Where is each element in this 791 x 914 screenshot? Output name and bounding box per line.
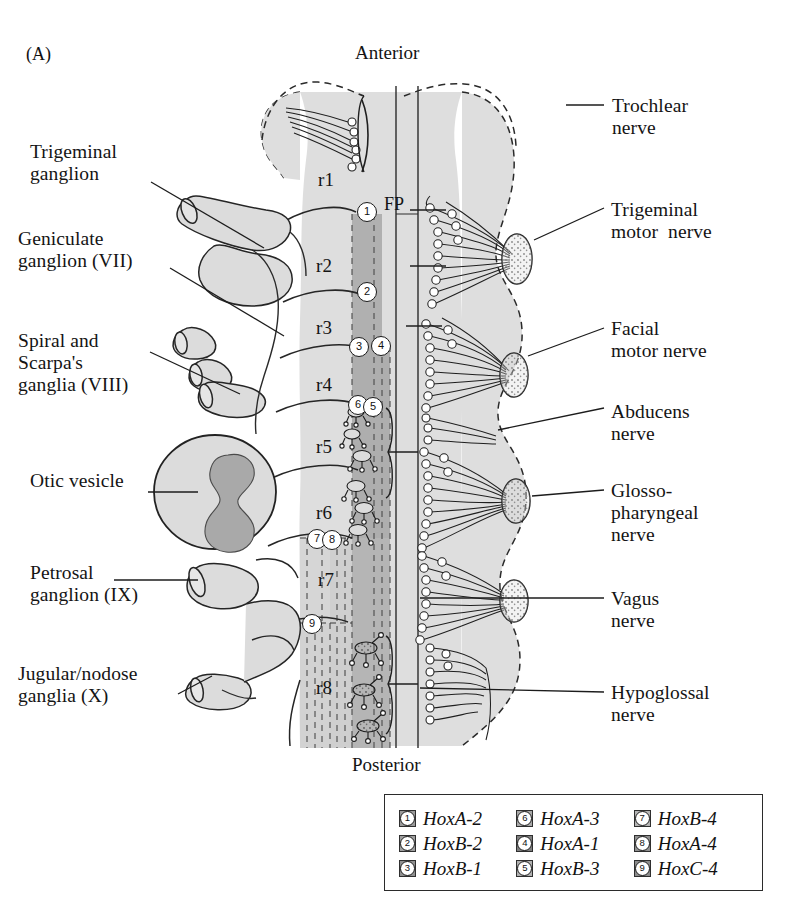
legend-marker-6: 6: [516, 810, 533, 827]
otic-vesicle-shape: [154, 435, 276, 552]
floor-plate-label: FP: [384, 194, 404, 215]
legend-gene-name: HoxA-1: [540, 833, 599, 855]
legend-gene-name: HoxB-3: [540, 858, 599, 880]
cranial-ganglia-left: [154, 196, 306, 746]
rhombomere-label-r7: r7: [318, 569, 334, 590]
figure-canvas: (A) Anterior Posterior FP r1r2r3r4r5r6r7…: [0, 0, 791, 914]
legend-marker-number: 7: [635, 811, 650, 826]
rhombomere-label-r6: r6: [316, 502, 332, 523]
legend-gene-name: HoxC-4: [658, 858, 718, 880]
legend-gene-name: HoxB-2: [423, 833, 482, 855]
hypoglossal-nerve-label: Hypoglossal nerve: [611, 682, 710, 726]
otic-vesicle-label: Otic vesicle: [30, 470, 124, 492]
legend-marker-4: 4: [516, 835, 533, 852]
hox-marker-2: 2: [357, 282, 377, 302]
trigeminal-ganglion-label: Trigeminal ganglion: [30, 141, 117, 185]
rhombomere-label-r2: r2: [316, 255, 332, 276]
abducens-nerve-label: Abducens nerve: [611, 401, 690, 445]
legend-entry-hoxc-4: 9HoxC-4: [634, 858, 751, 880]
legend-marker-3: 3: [399, 860, 416, 877]
legend-marker-number: 9: [635, 861, 650, 876]
rhombomere-label-r1: r1: [318, 169, 334, 190]
hox-marker-8: 8: [322, 530, 342, 550]
legend-gene-name: HoxA-3: [540, 808, 599, 830]
rhombomere-label-r5: r5: [316, 436, 332, 457]
hox-marker-9: 9: [302, 614, 322, 634]
geniculate-ganglion-label: Geniculate ganglion (VII): [18, 228, 133, 272]
legend-entry-hoxa-3: 6HoxA-3: [516, 808, 633, 830]
legend-marker-number: 3: [400, 861, 415, 876]
glossopharyngeal-nerve-label: Glosso- pharyngeal nerve: [611, 480, 699, 545]
legend-marker-8: 8: [634, 835, 651, 852]
trigeminal-motor-nerve-label: Trigeminal motor nerve: [611, 199, 712, 243]
anterior-label: Anterior: [355, 42, 419, 64]
hox-marker-3: 3: [349, 337, 369, 357]
petrosal-ganglion-label: Petrosal ganglion (IX): [30, 562, 138, 606]
hox-marker-1: 1: [357, 202, 377, 222]
legend-gene-name: HoxB-1: [423, 858, 482, 880]
posterior-label: Posterior: [352, 754, 421, 776]
legend-marker-7: 7: [634, 810, 651, 827]
legend-entry-hoxa-4: 8HoxA-4: [634, 833, 751, 855]
legend-marker-2: 2: [399, 835, 416, 852]
legend-marker-number: 6: [517, 811, 532, 826]
legend-marker-5: 5: [516, 860, 533, 877]
rhombomere-label-r3: r3: [316, 317, 332, 338]
legend-gene-name: HoxA-2: [423, 808, 482, 830]
legend-marker-9: 9: [634, 860, 651, 877]
legend-gene-name: HoxA-4: [658, 833, 717, 855]
facial-motor-nerve-label: Facial motor nerve: [611, 318, 707, 362]
hox-marker-4: 4: [371, 336, 391, 356]
legend-marker-number: 4: [517, 836, 532, 851]
legend-entry-hoxa-1: 4HoxA-1: [516, 833, 633, 855]
legend-marker-number: 1: [400, 811, 415, 826]
vagus-nerve-label: Vagus nerve: [611, 588, 659, 632]
hox-gene-legend: 1HoxA-26HoxA-37HoxB-42HoxB-24HoxA-18HoxA…: [384, 794, 763, 891]
legend-entry-hoxa-2: 1HoxA-2: [399, 808, 516, 830]
rhombomere-label-r4: r4: [316, 374, 332, 395]
legend-marker-number: 2: [400, 836, 415, 851]
legend-marker-1: 1: [399, 810, 416, 827]
legend-entry-hoxb-4: 7HoxB-4: [634, 808, 751, 830]
jugular-nodose-ganglia-label: Jugular/nodose ganglia (X): [18, 663, 137, 707]
hox-marker-5: 5: [363, 397, 383, 417]
trochlear-nerve-label: Trochlear nerve: [612, 95, 688, 139]
legend-entry-hoxb-1: 3HoxB-1: [399, 858, 516, 880]
legend-marker-number: 5: [517, 861, 532, 876]
legend-marker-number: 8: [635, 836, 650, 851]
legend-gene-name: HoxB-4: [658, 808, 717, 830]
panel-label: (A): [26, 44, 51, 65]
legend-entry-hoxb-3: 5HoxB-3: [516, 858, 633, 880]
rhombomere-label-r8: r8: [316, 677, 332, 698]
spiral-scarpas-ganglia-label: Spiral and Scarpa's ganglia (VIII): [18, 330, 128, 395]
legend-entry-hoxb-2: 2HoxB-2: [399, 833, 516, 855]
